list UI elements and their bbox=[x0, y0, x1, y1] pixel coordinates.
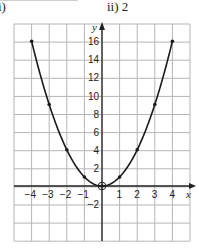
x-tick-label: −4 bbox=[25, 189, 37, 200]
x-tick-label: 2 bbox=[134, 189, 140, 200]
tick-labels: −4−3−2−11234161412108642−2 bbox=[25, 36, 176, 210]
y-tick-label: 2 bbox=[93, 163, 99, 174]
data-point bbox=[153, 103, 157, 107]
x-tick-label: 3 bbox=[152, 189, 158, 200]
data-point bbox=[171, 39, 175, 43]
data-point bbox=[83, 175, 87, 179]
x-tick-label: −3 bbox=[42, 189, 54, 200]
y-tick-label: −2 bbox=[88, 199, 100, 210]
y-tick-label: 14 bbox=[88, 54, 100, 65]
y-tick-label: 8 bbox=[93, 109, 99, 120]
y-tick-label: 12 bbox=[88, 72, 100, 83]
y-axis-arrow-icon bbox=[99, 22, 105, 30]
y-tick-label: 4 bbox=[93, 145, 99, 156]
x-axis-label: x bbox=[185, 188, 191, 200]
y-axis-label: y bbox=[91, 21, 97, 33]
x-tick-label: −2 bbox=[60, 189, 72, 200]
y-tick-label: 6 bbox=[93, 127, 99, 138]
data-point bbox=[100, 184, 104, 188]
parabola-chart: xy −4−3−2−11234161412108642−2 bbox=[0, 0, 199, 249]
data-point bbox=[135, 148, 139, 152]
x-tick-label: 4 bbox=[169, 189, 175, 200]
data-point bbox=[30, 39, 34, 43]
data-point bbox=[65, 148, 69, 152]
y-tick-label: 10 bbox=[88, 91, 100, 102]
y-tick-label: 16 bbox=[88, 36, 100, 47]
x-tick-label: 1 bbox=[117, 189, 123, 200]
data-point bbox=[47, 103, 51, 107]
data-point bbox=[118, 175, 122, 179]
